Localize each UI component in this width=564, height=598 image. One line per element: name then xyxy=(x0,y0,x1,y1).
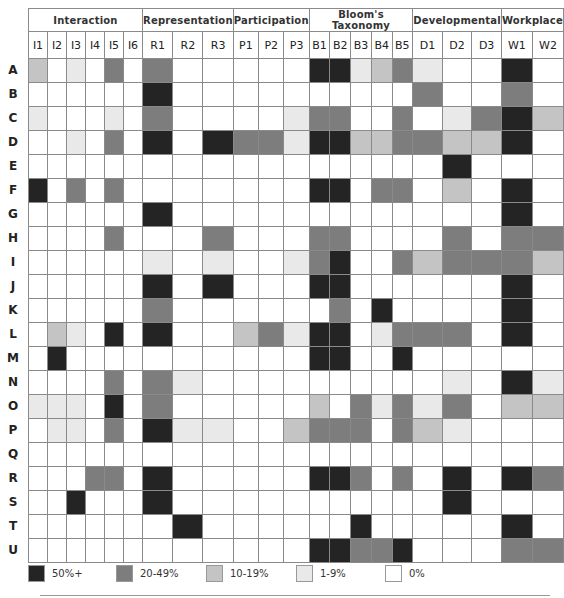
heatmap-cell xyxy=(442,491,472,515)
heatmap-cell xyxy=(330,515,351,539)
heatmap-cell xyxy=(413,107,443,131)
heatmap-cell xyxy=(330,371,351,395)
heatmap-cell xyxy=(143,203,173,227)
heatmap-row xyxy=(29,347,564,371)
heatmap-cell xyxy=(392,491,413,515)
heatmap-cell xyxy=(29,155,48,179)
heatmap-cell xyxy=(259,251,284,275)
heatmap-cell xyxy=(29,59,48,83)
heatmap-cell xyxy=(330,179,351,203)
heatmap-cell xyxy=(284,419,309,443)
heatmap-cell xyxy=(371,323,392,347)
heatmap-cell xyxy=(284,395,309,419)
heatmap-cell xyxy=(173,515,203,539)
heatmap-cell xyxy=(309,179,330,203)
heatmap-cell xyxy=(48,203,67,227)
heatmap-cell xyxy=(284,443,309,467)
heatmap-cell xyxy=(501,251,532,275)
heatmap-cell xyxy=(105,395,124,419)
heatmap-cell xyxy=(330,227,351,251)
heatmap-cell xyxy=(48,515,67,539)
heatmap-cell xyxy=(501,275,532,299)
heatmap-cell xyxy=(105,227,124,251)
heatmap-cell xyxy=(472,131,502,155)
heatmap-cell xyxy=(29,395,48,419)
heatmap-cell xyxy=(29,515,48,539)
heatmap-cell xyxy=(351,467,372,491)
heatmap-cell xyxy=(124,155,143,179)
heatmap-cell xyxy=(259,275,284,299)
heatmap-cell xyxy=(532,155,563,179)
heatmap-cell xyxy=(29,275,48,299)
heatmap-cell xyxy=(173,443,203,467)
heatmap-cell xyxy=(259,467,284,491)
legend-swatch xyxy=(116,565,133,582)
heatmap-cell xyxy=(259,371,284,395)
heatmap-cell xyxy=(203,83,233,107)
heatmap-cell xyxy=(501,107,532,131)
heatmap-cell xyxy=(86,155,105,179)
heatmap-cell xyxy=(330,299,351,323)
heatmap-cell xyxy=(48,323,67,347)
column-header: P3 xyxy=(284,32,309,59)
heatmap-cell xyxy=(501,83,532,107)
heatmap-cell xyxy=(472,83,502,107)
heatmap-cell xyxy=(351,371,372,395)
heatmap-cell xyxy=(173,131,203,155)
heatmap-cell xyxy=(143,419,173,443)
heatmap-cell xyxy=(309,83,330,107)
heatmap-cell xyxy=(105,203,124,227)
heatmap-cell xyxy=(413,251,443,275)
heatmap-cell xyxy=(124,371,143,395)
heatmap-cell xyxy=(501,395,532,419)
group-header-row: InteractionRepresentationParticipationBl… xyxy=(29,9,564,32)
heatmap-cell xyxy=(143,443,173,467)
heatmap-cell xyxy=(233,491,258,515)
row-label: R xyxy=(6,471,20,485)
heatmap-cell xyxy=(413,155,443,179)
heatmap-cell xyxy=(48,251,67,275)
heatmap-cell xyxy=(259,131,284,155)
heatmap-cell xyxy=(29,203,48,227)
heatmap-cell xyxy=(309,251,330,275)
column-header: R1 xyxy=(143,32,173,59)
heatmap-cell xyxy=(48,419,67,443)
heatmap-cell xyxy=(309,467,330,491)
heatmap-row xyxy=(29,395,564,419)
heatmap-cell xyxy=(392,515,413,539)
heatmap-cell xyxy=(173,467,203,491)
heatmap-cell xyxy=(472,539,502,563)
heatmap-cell xyxy=(86,443,105,467)
heatmap-cell xyxy=(29,419,48,443)
row-label: D xyxy=(6,135,20,149)
heatmap-cell xyxy=(309,275,330,299)
heatmap-cell xyxy=(233,83,258,107)
heatmap-cell xyxy=(371,251,392,275)
heatmap-cell xyxy=(309,443,330,467)
heatmap-cell xyxy=(413,395,443,419)
heatmap-cell xyxy=(330,347,351,371)
column-header: D1 xyxy=(413,32,443,59)
heatmap-cell xyxy=(442,107,472,131)
heatmap-cell xyxy=(442,371,472,395)
heatmap-cell xyxy=(259,107,284,131)
column-header: R2 xyxy=(173,32,203,59)
group-header: Interaction xyxy=(29,9,143,32)
heatmap-cell xyxy=(105,299,124,323)
heatmap-cell xyxy=(86,299,105,323)
heatmap-cell xyxy=(67,467,86,491)
heatmap-cell xyxy=(442,443,472,467)
heatmap-cell xyxy=(501,515,532,539)
heatmap-cell xyxy=(143,83,173,107)
heatmap-cell xyxy=(86,491,105,515)
heatmap-row xyxy=(29,107,564,131)
heatmap-cell xyxy=(203,275,233,299)
column-header: B5 xyxy=(392,32,413,59)
heatmap-cell xyxy=(173,107,203,131)
heatmap-cell xyxy=(105,347,124,371)
heatmap-cell xyxy=(472,443,502,467)
heatmap-cell xyxy=(173,83,203,107)
heatmap-cell xyxy=(392,539,413,563)
row-label: J xyxy=(6,279,20,293)
heatmap-cell xyxy=(67,155,86,179)
